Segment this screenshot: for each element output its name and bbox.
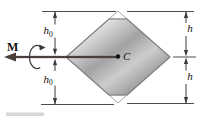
centroid-label: C — [123, 50, 131, 62]
centroid-dot — [116, 54, 120, 58]
moment-label: M — [7, 40, 18, 54]
dim-label-right-bottom: h — [187, 70, 193, 82]
dim-label-right-top: h — [187, 22, 193, 34]
cropped-caption-fragment — [6, 113, 44, 117]
figure-container: M C h0 h0 h h — [0, 0, 202, 116]
cross-section-diagram: M C h0 h0 h h — [0, 0, 202, 116]
